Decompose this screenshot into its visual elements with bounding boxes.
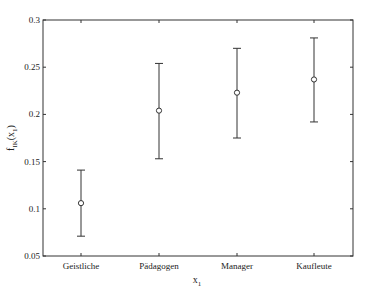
error-bar <box>77 170 85 236</box>
y-tick-label: 0.1 <box>29 204 40 214</box>
y-tick-label: 0.2 <box>29 109 40 119</box>
error-bar <box>310 38 318 122</box>
x-axis-ticks: GeistlichePädagogenManagerKaufleute <box>63 20 332 271</box>
y-tick-label: 0.3 <box>29 15 41 25</box>
x-tick-label: Pädagogen <box>139 261 179 271</box>
plot-frame <box>43 20 353 256</box>
x-tick-label: Geistliche <box>63 261 100 271</box>
data-point-marker <box>78 201 83 206</box>
errorbar-chart: 0.050.10.150.20.250.3 GeistlichePädagoge… <box>0 0 373 290</box>
y-axis-ticks: 0.050.10.150.20.250.3 <box>24 15 353 261</box>
x-tick-label: Manager <box>221 261 253 271</box>
error-bar <box>155 63 163 158</box>
data-point-marker <box>311 77 316 82</box>
error-bars <box>77 38 318 236</box>
error-bar <box>233 48 241 138</box>
data-point-marker <box>234 90 239 95</box>
data-point-marker <box>156 108 161 113</box>
y-axis-label: fIK(x1) <box>5 125 19 151</box>
y-tick-label: 0.15 <box>24 157 40 167</box>
x-axis-label: x1 <box>193 274 202 288</box>
y-tick-label: 0.25 <box>24 62 40 72</box>
y-tick-label: 0.05 <box>24 251 40 261</box>
x-tick-label: Kaufleute <box>296 261 331 271</box>
